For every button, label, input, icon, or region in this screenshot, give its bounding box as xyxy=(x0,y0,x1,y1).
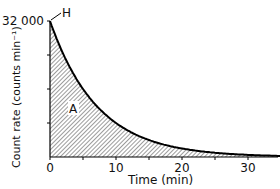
x-axis-title: Time (min) xyxy=(127,173,193,187)
a-label: A xyxy=(69,102,78,116)
h-marker-line xyxy=(51,13,61,20)
y-max-label: 32 000 xyxy=(2,14,44,28)
decay-chart: 0102030 32 000 H A Time (min) Count rate… xyxy=(0,0,280,189)
area-under-curve xyxy=(50,21,280,157)
x-tick-label: 30 xyxy=(240,161,255,175)
x-tick-label: 0 xyxy=(46,161,54,175)
y-axis-title: Count rate (counts min⁻¹) xyxy=(10,26,23,168)
h-marker-label: H xyxy=(62,6,71,20)
x-tick-label: 10 xyxy=(108,161,123,175)
